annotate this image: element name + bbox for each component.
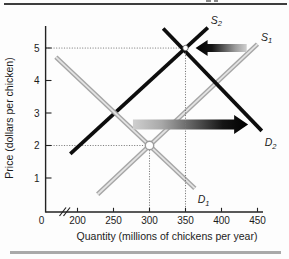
curve-label-D2: D2 — [265, 136, 278, 151]
y-tick-label: 1 — [34, 173, 40, 184]
curve-label-S1: S1 — [261, 31, 272, 46]
curve-label-D1: D1 — [198, 193, 210, 208]
x-tick-label: 200 — [69, 215, 86, 226]
x-tick-label: 450 — [249, 215, 266, 226]
demand-shift-arrow — [133, 115, 248, 134]
bottom-rule — [10, 251, 281, 254]
supply-demand-chart: 123452002503003504004500Price (dollars p… — [0, 0, 289, 259]
textbook-figure-page: 123452002503003504004500Price (dollars p… — [0, 0, 289, 259]
x-tick-label: 400 — [213, 215, 230, 226]
y-axis-title: Price (dollars per chicken) — [3, 57, 15, 178]
x-tick-label: 250 — [105, 215, 122, 226]
supply-shift-arrow — [196, 40, 247, 56]
x-axis-title: Quantity (millions of chickens per year) — [77, 230, 258, 242]
x-tick-label: 350 — [177, 215, 194, 226]
curve-D2 — [163, 29, 262, 131]
x-tick-label: 300 — [141, 215, 158, 226]
equilibrium-point-350-5 — [183, 45, 188, 50]
x-origin-label: 0 — [39, 215, 45, 226]
equilibrium-point-300-2 — [145, 141, 153, 149]
y-tick-label: 5 — [34, 43, 40, 54]
y-tick-label: 3 — [34, 108, 40, 119]
y-tick-label: 4 — [34, 75, 40, 86]
y-tick-label: 2 — [34, 140, 40, 151]
curve-label-S2: S2 — [211, 14, 223, 29]
